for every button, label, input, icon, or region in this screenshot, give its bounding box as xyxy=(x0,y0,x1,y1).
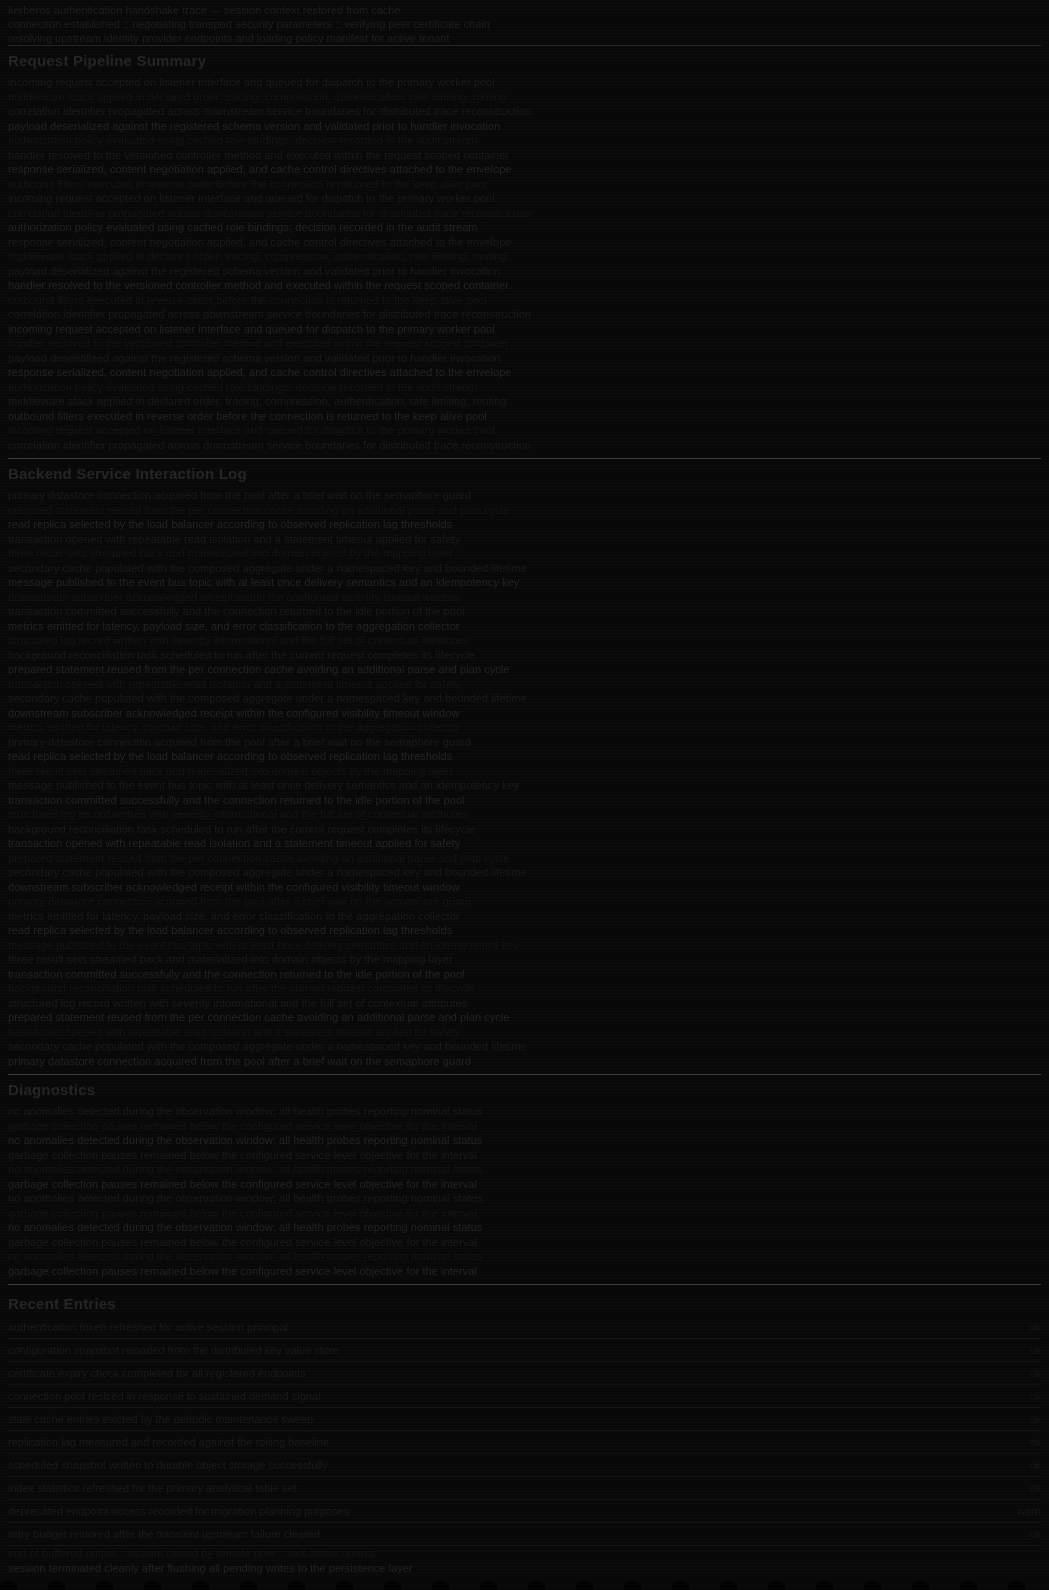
text-row: three result sets streamed back and mate… xyxy=(8,764,1041,779)
header-line-1: kerberos authentication handshake trace … xyxy=(8,3,1041,17)
text-row: outbound filters executed in reverse ord… xyxy=(8,293,1041,308)
text-row: transaction committed successfully and t… xyxy=(8,967,1041,982)
section-two-heading: Backend Service Interaction Log xyxy=(8,459,1041,486)
section-backend-log: Backend Service Interaction Log primary … xyxy=(8,459,1041,1074)
list-item[interactable]: stale cache entries evicted by the perio… xyxy=(8,1408,1041,1431)
list-item-status: ok xyxy=(1029,1390,1041,1402)
text-row: garbage collection pauses remained below… xyxy=(8,1119,1041,1134)
text-row: payload deserialized against the registe… xyxy=(8,119,1041,134)
list-item-label: connection pool resized in response to s… xyxy=(8,1390,1019,1402)
text-row: outbound filters executed in reverse ord… xyxy=(8,177,1041,192)
text-row: middleware stack applied in declared ord… xyxy=(8,249,1041,264)
text-row: correlation identifier propagated across… xyxy=(8,104,1041,119)
text-row: downstream subscriber acknowledged recei… xyxy=(8,706,1041,721)
text-row: prepared statement reused from the per c… xyxy=(8,662,1041,677)
text-row: secondary cache populated with the compo… xyxy=(8,865,1041,880)
list-heading: Recent Entries xyxy=(8,1289,1041,1316)
list-item-label: retry budget restored after the transien… xyxy=(8,1528,1019,1540)
list-item-status: ok xyxy=(1029,1413,1041,1425)
text-row: incoming request accepted on listener in… xyxy=(8,322,1041,337)
section-three-body: no anomalies detected during the observa… xyxy=(8,1102,1041,1284)
text-row: secondary cache populated with the compo… xyxy=(8,1039,1041,1054)
text-row: prepared statement reused from the per c… xyxy=(8,503,1041,518)
text-row: correlation identifier propagated across… xyxy=(8,438,1041,453)
text-row: incoming request accepted on listener in… xyxy=(8,423,1041,438)
text-row: garbage collection pauses remained below… xyxy=(8,1235,1041,1250)
text-row: response serialized, content negotiation… xyxy=(8,235,1041,250)
text-row: garbage collection pauses remained below… xyxy=(8,1206,1041,1221)
document-footer: end of buffered output :: stream closed … xyxy=(8,1546,1041,1575)
list-item[interactable]: index statistics refreshed for the prima… xyxy=(8,1477,1041,1500)
document-page: kerberos authentication handshake trace … xyxy=(0,0,1049,1590)
text-row: read replica selected by the load balanc… xyxy=(8,923,1041,938)
section-two-body: primary datastore connection acquired fr… xyxy=(8,486,1041,1074)
text-row: message published to the event bus topic… xyxy=(8,778,1041,793)
bottom-edge-decoration xyxy=(0,1572,1049,1590)
text-row: garbage collection pauses remained below… xyxy=(8,1264,1041,1279)
section-one-heading: Request Pipeline Summary xyxy=(8,46,1041,73)
text-row: secondary cache populated with the compo… xyxy=(8,561,1041,576)
list-item[interactable]: authentication token refreshed for activ… xyxy=(8,1316,1041,1339)
list-item-label: index statistics refreshed for the prima… xyxy=(8,1482,1019,1494)
text-row: garbage collection pauses remained below… xyxy=(8,1148,1041,1163)
text-row: structured log record written with sever… xyxy=(8,807,1041,822)
text-row: no anomalies detected during the observa… xyxy=(8,1133,1041,1148)
footer-line-1: end of buffered output :: stream closed … xyxy=(8,1546,1041,1561)
list-item-label: certificate expiry check completed for a… xyxy=(8,1367,1019,1379)
list-item-label: scheduled snapshot written to durable ob… xyxy=(8,1459,1019,1471)
list-item[interactable]: retry budget restored after the transien… xyxy=(8,1523,1041,1546)
list-item-status: ok xyxy=(1029,1321,1041,1333)
text-row: response serialized, content negotiation… xyxy=(8,162,1041,177)
text-row: middleware stack applied in declared ord… xyxy=(8,90,1041,105)
list-item[interactable]: certificate expiry check completed for a… xyxy=(8,1362,1041,1385)
list-item[interactable]: deprecated endpoint access recorded for … xyxy=(8,1500,1041,1523)
text-row: no anomalies detected during the observa… xyxy=(8,1220,1041,1235)
text-row: metrics emitted for latency, payload siz… xyxy=(8,720,1041,735)
text-row: three result sets streamed back and mate… xyxy=(8,952,1041,967)
text-row: authorization policy evaluated using cac… xyxy=(8,220,1041,235)
recent-entries-list: Recent Entries authentication token refr… xyxy=(8,1285,1041,1546)
list-item[interactable]: configuration snapshot reloaded from the… xyxy=(8,1339,1041,1362)
header-line-3: resolving upstream identity provider end… xyxy=(8,31,1041,45)
text-row: background reconciliation task scheduled… xyxy=(8,981,1041,996)
list-item-label: stale cache entries evicted by the perio… xyxy=(8,1413,1019,1425)
list-item-status: ok xyxy=(1029,1459,1041,1471)
text-row: downstream subscriber acknowledged recei… xyxy=(8,880,1041,895)
text-row: prepared statement reused from the per c… xyxy=(8,1010,1041,1025)
section-request-pipeline: Request Pipeline Summary incoming reques… xyxy=(8,46,1041,458)
text-row: outbound filters executed in reverse ord… xyxy=(8,409,1041,424)
text-row: primary datastore connection acquired fr… xyxy=(8,1054,1041,1069)
text-row: transaction opened with repeatable read … xyxy=(8,1025,1041,1040)
text-row: transaction committed successfully and t… xyxy=(8,793,1041,808)
list-item-status: ok xyxy=(1029,1436,1041,1448)
list-item[interactable]: replication lag measured and recorded ag… xyxy=(8,1431,1041,1454)
list-item-status: ok xyxy=(1029,1482,1041,1494)
list-item-status: ok xyxy=(1029,1528,1041,1540)
text-row: message published to the event bus topic… xyxy=(8,938,1041,953)
list-item-status: ok xyxy=(1029,1367,1041,1379)
text-row: incoming request accepted on listener in… xyxy=(8,75,1041,90)
list-item[interactable]: connection pool resized in response to s… xyxy=(8,1385,1041,1408)
text-row: authorization policy evaluated using cac… xyxy=(8,133,1041,148)
list-item[interactable]: scheduled snapshot written to durable ob… xyxy=(8,1454,1041,1477)
text-row: response serialized, content negotiation… xyxy=(8,365,1041,380)
document-header: kerberos authentication handshake trace … xyxy=(8,0,1041,45)
text-row: no anomalies detected during the observa… xyxy=(8,1191,1041,1206)
text-row: read replica selected by the load balanc… xyxy=(8,517,1041,532)
text-row: message published to the event bus topic… xyxy=(8,575,1041,590)
text-row: transaction committed successfully and t… xyxy=(8,604,1041,619)
list-item-label: deprecated endpoint access recorded for … xyxy=(8,1505,1007,1517)
text-row: background reconciliation task scheduled… xyxy=(8,648,1041,663)
text-row: transaction opened with repeatable read … xyxy=(8,532,1041,547)
text-row: incoming request accepted on listener in… xyxy=(8,191,1041,206)
text-row: three result sets streamed back and mate… xyxy=(8,546,1041,561)
text-row: prepared statement reused from the per c… xyxy=(8,851,1041,866)
text-row: garbage collection pauses remained below… xyxy=(8,1177,1041,1192)
text-row: transaction opened with repeatable read … xyxy=(8,677,1041,692)
list-item-label: authentication token refreshed for activ… xyxy=(8,1321,1019,1333)
text-row: primary datastore connection acquired fr… xyxy=(8,894,1041,909)
text-row: no anomalies detected during the observa… xyxy=(8,1104,1041,1119)
text-row: transaction opened with repeatable read … xyxy=(8,836,1041,851)
text-row: primary datastore connection acquired fr… xyxy=(8,735,1041,750)
text-row: structured log record written with sever… xyxy=(8,633,1041,648)
